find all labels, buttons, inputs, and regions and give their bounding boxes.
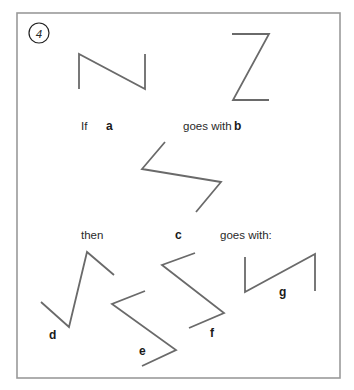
label-f: f [210, 326, 215, 340]
shape-a [79, 54, 145, 89]
label-b: b [234, 119, 241, 133]
shape-c [142, 142, 221, 212]
puzzle-number-badge: 4 [29, 23, 49, 43]
text-goes-with-2: goes with: [220, 229, 272, 241]
shape-b [232, 34, 269, 100]
label-a: a [106, 119, 113, 133]
shape-d [41, 252, 114, 327]
puzzle-figure: 4 If a goes with b then c goes with: d e… [0, 0, 354, 390]
text-goes-with-1: goes with [183, 120, 232, 132]
text-if: If [81, 120, 88, 132]
label-g: g [279, 285, 286, 299]
puzzle-number: 4 [36, 28, 42, 40]
label-c: c [175, 228, 182, 242]
label-d: d [49, 328, 56, 342]
shape-f [162, 253, 224, 328]
label-e: e [139, 344, 146, 358]
text-then: then [81, 229, 103, 241]
